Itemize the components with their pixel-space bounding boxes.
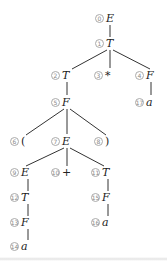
node-number-badge: 15	[91, 193, 100, 202]
tree-node: 0E	[95, 11, 114, 25]
node-symbol: a	[146, 96, 153, 109]
node-symbol: T	[106, 37, 113, 50]
node-symbol: F	[62, 96, 70, 109]
tree-edge	[113, 50, 150, 69]
tree-edge	[70, 109, 106, 135]
node-symbol: )	[105, 135, 109, 148]
node-symbol: E	[21, 166, 29, 179]
tree-node: 15F	[91, 190, 110, 204]
tree-node: 13F	[10, 215, 29, 229]
node-number-badge: 1	[95, 39, 104, 48]
tree-node: 9E	[10, 165, 29, 179]
node-symbol: F	[21, 216, 29, 229]
node-number-badge: 13	[10, 218, 19, 227]
tree-node: 10+	[51, 165, 71, 179]
node-symbol: a	[102, 216, 109, 229]
tree-edge	[72, 50, 107, 69]
node-symbol: F	[102, 191, 110, 204]
tree-edge	[70, 148, 104, 166]
node-number-badge: 2	[51, 71, 60, 80]
node-symbol: F	[146, 69, 154, 82]
tree-node: 12T	[10, 190, 28, 204]
node-number-badge: 8	[94, 137, 103, 146]
node-number-badge: 12	[10, 193, 19, 202]
node-symbol: a	[21, 240, 28, 253]
caption-cutoff	[0, 257, 167, 261]
tree-node: 14a	[10, 239, 28, 253]
node-symbol: +	[62, 166, 71, 179]
node-number-badge: 16	[91, 218, 100, 227]
tree-node: 11T	[91, 165, 109, 179]
node-number-badge: 0	[95, 14, 104, 23]
tree-edge	[26, 109, 64, 135]
node-number-badge: 5	[51, 98, 60, 107]
node-number-badge: 6	[10, 137, 19, 146]
tree-node: 4F	[135, 68, 154, 82]
node-number-badge: 3	[94, 71, 103, 80]
tree-node: 1T	[95, 36, 113, 50]
node-symbol: T	[62, 69, 69, 82]
node-symbol: E	[62, 135, 70, 148]
tree-node: 5F	[51, 95, 70, 109]
node-number-badge: 17	[135, 98, 144, 107]
tree-node: 16a	[91, 215, 109, 229]
tree-node: 7E	[51, 134, 70, 148]
node-symbol: T	[21, 191, 28, 204]
tree-node: 6(	[10, 134, 25, 148]
node-number-badge: 4	[135, 71, 144, 80]
node-symbol: *	[105, 69, 111, 82]
node-number-badge: 14	[10, 242, 19, 251]
node-number-badge: 9	[10, 168, 19, 177]
node-number-badge: 10	[51, 168, 60, 177]
tree-edge	[26, 148, 64, 166]
tree-node: 3*	[94, 68, 111, 82]
node-symbol: (	[21, 135, 25, 148]
tree-node: 17a	[135, 95, 153, 109]
tree-node: 2T	[51, 68, 69, 82]
node-number-badge: 11	[91, 168, 100, 177]
node-symbol: E	[106, 12, 114, 25]
tree-node: 8)	[94, 134, 109, 148]
node-number-badge: 7	[51, 137, 60, 146]
node-symbol: T	[102, 166, 109, 179]
